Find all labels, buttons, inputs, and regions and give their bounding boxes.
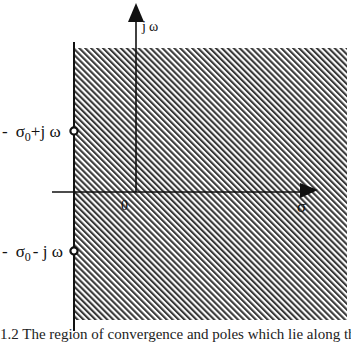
real-axis-label: σ <box>297 197 306 216</box>
upper-pole-label: -σ0+j ω <box>2 122 61 144</box>
convergence-region <box>74 48 347 320</box>
imaginary-axis-label: jω <box>141 19 158 34</box>
origin-label: 0 <box>121 198 128 213</box>
lower-pole-marker <box>70 247 77 254</box>
figure-caption: 1.2 The region of convergence and poles … <box>0 326 351 346</box>
lower-pole-label: -σ0- j ω <box>2 242 63 264</box>
upper-pole-marker <box>70 127 77 134</box>
